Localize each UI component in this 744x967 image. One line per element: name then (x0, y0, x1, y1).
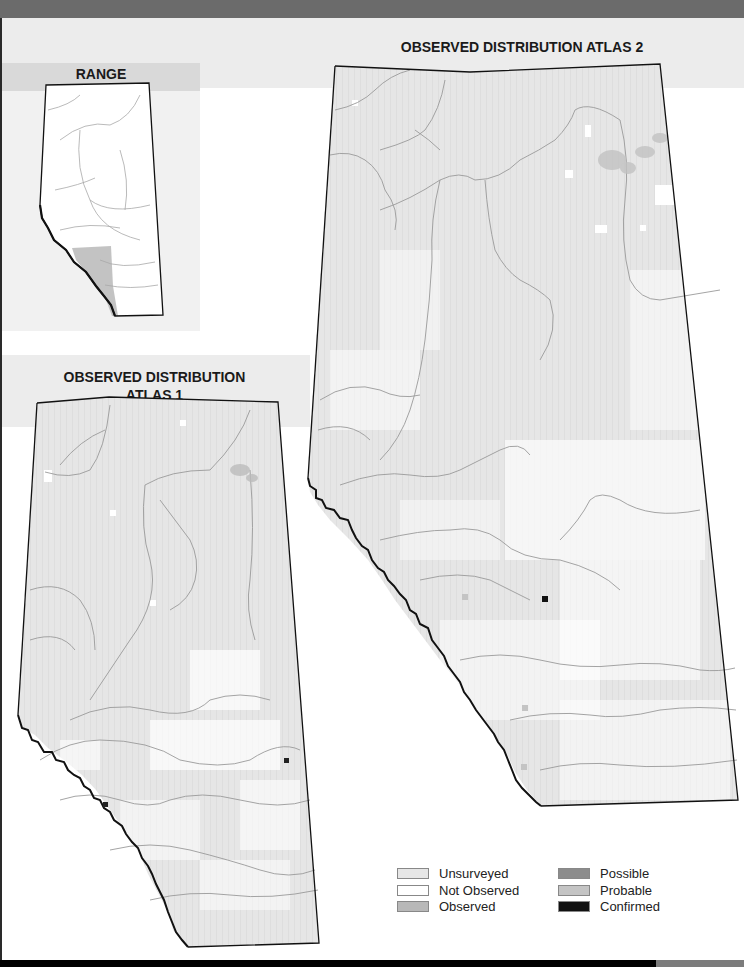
confirmed-swatch (558, 901, 590, 912)
confirmed-marker (542, 596, 548, 602)
legend-label: Not Observed (439, 883, 519, 898)
legend-label: Possible (600, 866, 649, 881)
legend-label: Confirmed (600, 899, 660, 914)
maps-canvas (0, 0, 744, 967)
range-map (40, 83, 163, 316)
confirmed-marker (284, 758, 289, 763)
unsurveyed-swatch (397, 868, 429, 879)
atlas2-map (308, 64, 738, 806)
legend-item-not-observed: Not Observed (397, 883, 519, 897)
confirmed-marker (103, 802, 108, 807)
atlas1-map (18, 397, 319, 947)
probable-swatch (558, 885, 590, 896)
legend-item-probable: Probable (558, 883, 652, 897)
observed-swatch (397, 901, 429, 912)
not-observed-swatch (397, 885, 429, 896)
possible-swatch (558, 868, 590, 879)
legend-label: Observed (439, 899, 495, 914)
legend-item-possible: Possible (558, 866, 649, 880)
legend-item-observed: Observed (397, 899, 495, 913)
legend-item-confirmed: Confirmed (558, 899, 660, 913)
probable-marker (462, 594, 468, 600)
bottom-bar-gray (656, 960, 744, 967)
probable-marker (522, 705, 528, 711)
legend-label: Probable (600, 883, 652, 898)
legend-item-unsurveyed: Unsurveyed (397, 866, 508, 880)
bottom-bar-black (0, 960, 656, 967)
legend-label: Unsurveyed (439, 866, 508, 881)
probable-marker (521, 764, 527, 770)
